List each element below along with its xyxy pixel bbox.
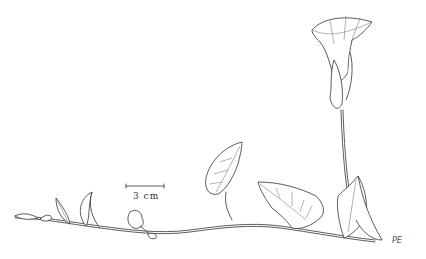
vine-drawing xyxy=(0,0,426,259)
botanical-illustration: 3 cm PE xyxy=(0,0,426,259)
artist-signature: PE xyxy=(392,236,402,245)
scale-bar-label: 3 cm xyxy=(133,191,159,201)
